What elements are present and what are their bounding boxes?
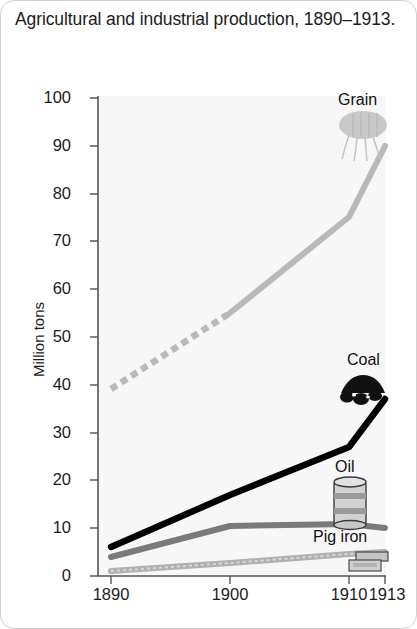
y-tick-label-100: 100 [31, 88, 71, 107]
chart-card: Agricultural and industrial production, … [0, 0, 417, 629]
y-tick-label-60: 60 [31, 279, 71, 298]
x-tick-label-1913: 1913 [369, 585, 406, 604]
y-tick-label-0: 0 [31, 566, 71, 585]
series-label-oil: Oil [335, 458, 355, 476]
x-tick-marks [111, 576, 385, 584]
y-tick-label-40: 40 [31, 375, 71, 394]
y-tick-label-80: 80 [31, 184, 71, 203]
y-tick-label-50: 50 [31, 327, 71, 346]
series-label-grain: Grain [338, 91, 377, 109]
series-label-pig-iron: Pig iron [313, 528, 367, 546]
chart-figure: Million tons 100 90 80 70 60 50 40 30 20… [1, 1, 417, 629]
x-tick-label-1890: 1890 [93, 585, 130, 604]
y-tick-label-20: 20 [31, 470, 71, 489]
y-tick-label-10: 10 [31, 518, 71, 537]
x-tick-label-1910: 1910 [331, 585, 368, 604]
y-tick-labels: 100 90 80 70 60 50 40 30 20 10 0 [27, 1, 71, 629]
y-tick-label-90: 90 [31, 136, 71, 155]
x-tick-label-1900: 1900 [212, 585, 249, 604]
oil-barrel-icon [334, 477, 366, 530]
y-tick-marks [90, 98, 98, 576]
y-tick-label-70: 70 [31, 231, 71, 250]
y-tick-label-30: 30 [31, 423, 71, 442]
series-label-coal: Coal [347, 351, 380, 369]
